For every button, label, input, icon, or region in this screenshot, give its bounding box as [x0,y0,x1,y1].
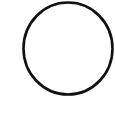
circle-outline [24,3,113,95]
drawing-canvas [0,0,115,139]
